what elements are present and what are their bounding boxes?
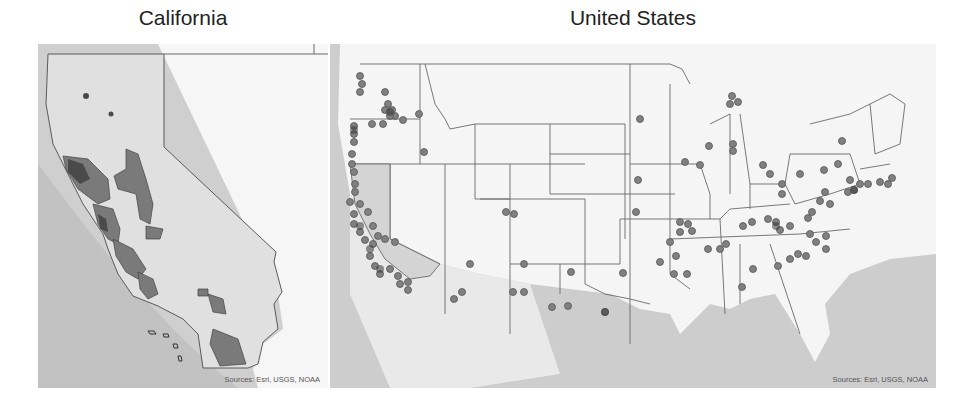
us-map-credit: Sources: Esri, USGS, NOAA [833, 375, 928, 384]
us-map-canvas: Sources: Esri, USGS, NOAA [330, 44, 936, 388]
us-map-title: United States [330, 6, 936, 30]
california-map-credit: Sources: Esri, USGS, NOAA [225, 375, 320, 384]
california-map-canvas: Sources: Esri, USGS, NOAA [38, 44, 328, 388]
us-map[interactable]: Sources: Esri, USGS, NOAA [330, 44, 936, 388]
california-map[interactable]: Sources: Esri, USGS, NOAA [38, 44, 328, 388]
california-map-title: California [38, 6, 328, 30]
